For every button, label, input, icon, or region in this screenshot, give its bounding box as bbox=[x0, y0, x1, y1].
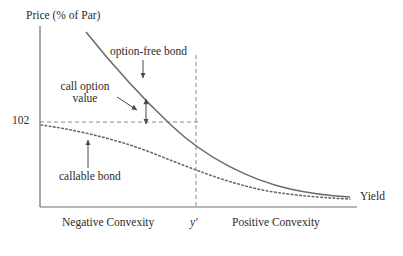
call-option-value-line2: value bbox=[73, 92, 98, 104]
annotation-callable-bond: callable bond bbox=[59, 170, 121, 182]
x-axis-title: Yield bbox=[360, 190, 385, 202]
price-yield-chart: Price (% of Par) Yield 102 option-free b… bbox=[0, 0, 403, 256]
y-tick-label-102: 102 bbox=[12, 114, 29, 126]
annotation-option-free-bond: option-free bond bbox=[110, 45, 187, 57]
chart-canvas bbox=[0, 0, 403, 256]
annotation-call-option-value: call option value bbox=[46, 80, 124, 104]
region-label-negative-convexity: Negative Convexity bbox=[62, 216, 154, 228]
y-axis-title: Price (% of Par) bbox=[26, 9, 100, 21]
call-option-value-line1: call option bbox=[61, 80, 110, 92]
x-tick-label-yprime: y′ bbox=[190, 216, 198, 228]
region-label-positive-convexity: Positive Convexity bbox=[232, 216, 320, 228]
